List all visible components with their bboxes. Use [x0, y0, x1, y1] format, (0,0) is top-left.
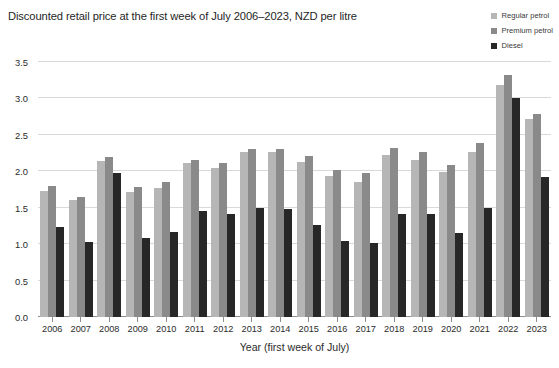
- bar-groups: [38, 62, 551, 317]
- x-axis-tick: [422, 317, 423, 322]
- bar[interactable]: [199, 211, 207, 317]
- bar-group: [38, 62, 67, 317]
- y-axis-label: 2.0: [15, 166, 28, 177]
- bar[interactable]: [69, 200, 77, 317]
- x-axis-tick-cell: [67, 317, 96, 322]
- x-axis-tick: [451, 317, 452, 322]
- bar[interactable]: [533, 114, 541, 317]
- bar[interactable]: [256, 208, 264, 317]
- x-axis-label: 2009: [124, 324, 153, 334]
- bar[interactable]: [382, 155, 390, 317]
- bar[interactable]: [56, 227, 64, 317]
- bar[interactable]: [170, 232, 178, 317]
- bar[interactable]: [512, 98, 520, 317]
- bar[interactable]: [154, 188, 162, 317]
- x-axis-label: 2022: [494, 324, 523, 334]
- x-axis-tick: [508, 317, 509, 322]
- x-axis-tick: [479, 317, 480, 322]
- x-axis-tick-cell: [238, 317, 267, 322]
- bar[interactable]: [183, 163, 191, 317]
- bar[interactable]: [362, 173, 370, 317]
- y-axis-label: 3.5: [15, 57, 28, 68]
- x-axis-label: 2017: [352, 324, 381, 334]
- bar[interactable]: [525, 119, 533, 317]
- bar[interactable]: [126, 192, 134, 317]
- x-axis-tick: [280, 317, 281, 322]
- x-axis-tick-cell: [266, 317, 295, 322]
- bar[interactable]: [284, 209, 292, 317]
- bar[interactable]: [105, 157, 113, 317]
- bar[interactable]: [419, 152, 427, 317]
- x-axis-tick: [166, 317, 167, 322]
- bar-group: [352, 62, 381, 317]
- bar[interactable]: [325, 176, 333, 317]
- bar[interactable]: [439, 172, 447, 317]
- bar[interactable]: [476, 143, 484, 317]
- x-axis-label: 2019: [409, 324, 438, 334]
- bar[interactable]: [248, 149, 256, 317]
- bar[interactable]: [484, 208, 492, 317]
- bar[interactable]: [276, 149, 284, 317]
- bar[interactable]: [390, 148, 398, 317]
- bar[interactable]: [227, 214, 235, 317]
- legend-label-regular-petrol: Regular petrol: [502, 11, 550, 20]
- bar[interactable]: [427, 214, 435, 317]
- bar[interactable]: [219, 163, 227, 317]
- bar[interactable]: [496, 85, 504, 317]
- bar-group: [494, 62, 523, 317]
- bar[interactable]: [455, 233, 463, 318]
- x-axis-tick-cell: [323, 317, 352, 322]
- bar[interactable]: [162, 182, 170, 318]
- legend-item-premium-petrol: Premium petrol: [491, 26, 553, 35]
- x-axis-tick-cell: [181, 317, 210, 322]
- x-axis-tick-cell: [295, 317, 324, 322]
- x-axis-tick: [251, 317, 252, 322]
- legend-label-premium-petrol: Premium petrol: [502, 26, 553, 35]
- bar[interactable]: [113, 173, 121, 317]
- x-axis-tick-cell: [352, 317, 381, 322]
- bar[interactable]: [85, 242, 93, 317]
- bar-group: [181, 62, 210, 317]
- x-axis-label: 2012: [209, 324, 238, 334]
- bar[interactable]: [447, 165, 455, 317]
- x-axis-label: 2014: [266, 324, 295, 334]
- y-axis-label: 0.0: [15, 312, 28, 323]
- x-axis-tick-cell: [38, 317, 67, 322]
- bar[interactable]: [211, 168, 219, 317]
- x-axis-tick-cell: [124, 317, 153, 322]
- bar-group: [266, 62, 295, 317]
- bar[interactable]: [398, 214, 406, 317]
- legend-label-diesel: Diesel: [502, 41, 523, 50]
- bar[interactable]: [468, 152, 476, 317]
- bar[interactable]: [341, 241, 349, 318]
- bar[interactable]: [97, 161, 105, 317]
- bar[interactable]: [191, 160, 199, 317]
- x-axis-label: 2015: [295, 324, 324, 334]
- x-axis-tick: [536, 317, 537, 322]
- bar[interactable]: [370, 243, 378, 317]
- bar[interactable]: [48, 186, 56, 317]
- bar[interactable]: [504, 75, 512, 317]
- bar[interactable]: [142, 238, 150, 317]
- bar[interactable]: [411, 160, 419, 317]
- bar[interactable]: [268, 152, 276, 317]
- x-axis-label: 2006: [38, 324, 67, 334]
- bar[interactable]: [313, 225, 321, 317]
- bar[interactable]: [305, 156, 313, 317]
- x-axis-title: Year (first week of July): [38, 341, 551, 353]
- bar[interactable]: [134, 187, 142, 317]
- bar[interactable]: [297, 162, 305, 317]
- bar[interactable]: [40, 191, 48, 317]
- bar[interactable]: [77, 197, 85, 317]
- bar[interactable]: [541, 177, 549, 317]
- x-axis-ticks: [38, 317, 551, 322]
- x-axis-label: 2021: [466, 324, 495, 334]
- x-axis-tick: [109, 317, 110, 322]
- bar-group: [380, 62, 409, 317]
- y-axis-label: 1.0: [15, 239, 28, 250]
- bar[interactable]: [354, 182, 362, 318]
- x-axis-tick: [394, 317, 395, 322]
- bar[interactable]: [333, 170, 341, 317]
- bar[interactable]: [240, 152, 248, 317]
- bar-chart: Discounted retail price at the first wee…: [0, 0, 559, 368]
